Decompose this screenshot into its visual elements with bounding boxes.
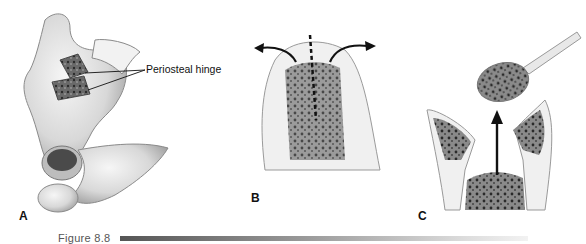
caption-gradient-bar (120, 236, 528, 241)
periosteal-hinge-label: Periosteal hinge (146, 63, 221, 75)
panel-b-illustration (230, 20, 400, 190)
panel-a-illustration (0, 0, 220, 230)
panel-label-c: C (418, 209, 427, 223)
figure-caption: Figure 8.8 (58, 232, 111, 244)
panel-label-a: A (19, 209, 28, 223)
panel-label-b: B (251, 191, 260, 205)
panel-c-illustration (405, 10, 585, 220)
